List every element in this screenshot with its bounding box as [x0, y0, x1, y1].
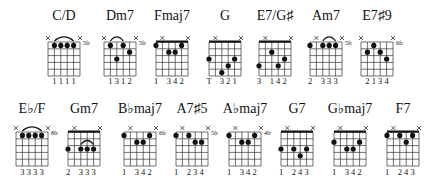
finger-dot — [134, 140, 139, 145]
finger-dot — [78, 146, 83, 151]
chord-chart: C/D5fr1111Dm75fr1312Fmaj71342GT321E7/G♯3… — [0, 0, 442, 186]
finger-dot — [298, 153, 303, 158]
finger-number: 3 — [91, 167, 95, 177]
finger-number: 2 — [147, 167, 151, 177]
finger-dot — [108, 43, 113, 48]
finger-dot — [85, 146, 90, 151]
finger-dot — [232, 56, 237, 61]
finger-number: 3 — [333, 76, 337, 86]
nut — [68, 131, 100, 133]
finger-dot — [404, 140, 409, 145]
finger-dot — [226, 133, 231, 138]
finger-dot — [39, 133, 44, 138]
finger-number: T — [206, 76, 212, 86]
muted-string-icon — [285, 126, 289, 130]
chord-diagram: GT321 — [206, 8, 243, 86]
chord-diagram: Gm72333 — [65, 101, 102, 177]
finger-number: 4 — [141, 167, 146, 177]
finger-dot — [173, 133, 178, 138]
chord-diagram: Am75fr2333 — [307, 8, 352, 86]
nut — [387, 131, 419, 133]
finger-number: 4 — [173, 76, 178, 86]
finger-dot — [52, 43, 57, 48]
finger-number: 3 — [378, 76, 382, 86]
finger-number: 3 — [257, 76, 261, 86]
finger-dot — [282, 56, 287, 61]
finger-dot — [371, 43, 376, 48]
fret-position-label: 5fr — [211, 130, 218, 136]
finger-dot — [20, 133, 25, 138]
nut — [259, 41, 291, 43]
finger-number: 3 — [321, 76, 325, 86]
finger-number: 3 — [240, 167, 244, 177]
finger-number: 1 — [122, 167, 126, 177]
muted-string-icon — [14, 126, 18, 130]
finger-dot — [357, 140, 362, 145]
finger-dot — [219, 70, 224, 75]
finger-dot — [269, 50, 274, 55]
finger-number: 3 — [345, 167, 349, 177]
muted-string-icon — [134, 36, 138, 40]
chord-diagram: F71243 — [384, 101, 421, 177]
chord-diagram: B♭maj76fr1342 — [118, 101, 166, 177]
finger-number: 2 — [127, 76, 131, 86]
finger-number: 1 — [232, 76, 236, 86]
muted-string-icon — [359, 36, 363, 40]
chord-diagram: E7♯96fr2134 — [359, 8, 403, 86]
finger-dot — [307, 43, 312, 48]
finger-number: 1 — [59, 76, 63, 86]
finger-number: 2 — [179, 76, 183, 86]
finger-dot — [121, 133, 126, 138]
muted-string-icon — [154, 126, 158, 130]
finger-dot — [127, 50, 132, 55]
finger-number: 3 — [79, 167, 83, 177]
chord-name: E7♯9 — [362, 8, 392, 23]
chord-diagram: C/D5fr1111 — [46, 8, 90, 86]
finger-dot — [65, 146, 70, 151]
muted-string-icon — [72, 126, 76, 130]
finger-dot — [378, 50, 383, 55]
finger-number: 2 — [187, 167, 191, 177]
finger-dot — [331, 140, 336, 145]
chord-name: Fmaj7 — [154, 8, 190, 23]
muted-string-icon — [340, 36, 344, 40]
finger-number: 1 — [227, 167, 231, 177]
finger-dot — [186, 133, 191, 138]
nut — [156, 41, 188, 43]
finger-number: 3 — [33, 167, 37, 177]
finger-number: 4 — [199, 167, 204, 177]
finger-number: 1 — [372, 76, 376, 86]
chord-name: G♭maj7 — [328, 101, 373, 116]
finger-dot — [384, 56, 389, 61]
finger-number: 2 — [308, 76, 312, 86]
muted-string-icon — [46, 36, 50, 40]
finger-dot — [33, 133, 38, 138]
finger-number: 2 — [66, 167, 70, 177]
chord-diagram: Dm75fr1312 — [102, 8, 146, 86]
muted-string-icon — [364, 126, 368, 130]
barre-arc — [323, 37, 336, 41]
finger-number: 2 — [398, 167, 402, 177]
finger-dot — [58, 43, 63, 48]
nut — [281, 131, 313, 133]
finger-number: 3 — [327, 76, 331, 86]
finger-number: 3 — [20, 167, 24, 177]
finger-dot — [153, 43, 158, 48]
chord-name: Gm7 — [70, 101, 98, 116]
muted-string-icon — [180, 126, 184, 130]
finger-number: 1 — [108, 76, 112, 86]
finger-number: 3 — [27, 167, 31, 177]
finger-dot — [179, 43, 184, 48]
fret-position-label: 5fr — [83, 40, 90, 46]
finger-dot — [278, 146, 283, 151]
muted-string-icon — [233, 126, 237, 130]
finger-dot — [65, 43, 70, 48]
finger-dot — [246, 140, 251, 145]
finger-dot — [147, 133, 152, 138]
muted-string-icon — [311, 126, 315, 130]
finger-number: 1 — [174, 167, 178, 177]
muted-string-icon — [98, 126, 102, 130]
muted-string-icon — [259, 126, 263, 130]
muted-string-icon — [160, 36, 164, 40]
chord-diagram: E7/G♯3142 — [256, 8, 294, 86]
